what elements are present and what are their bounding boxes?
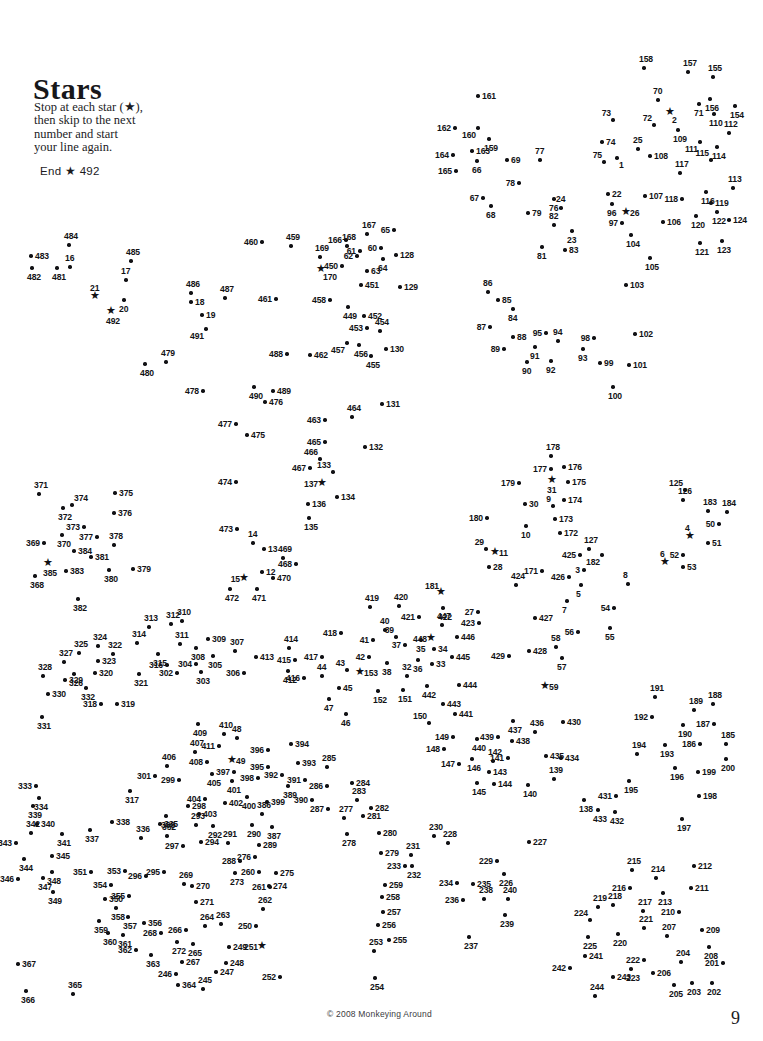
dot-icon (262, 547, 265, 550)
dot-icon (642, 958, 645, 961)
dot-icon (307, 516, 310, 519)
dot-icon (489, 204, 492, 207)
dot-number-label: 186 (682, 739, 696, 749)
dot-icon (224, 961, 227, 964)
dot-number-label: 89 (491, 344, 500, 354)
dot-number-label: 425 (562, 550, 576, 560)
dot-number-label: 75 (593, 150, 602, 160)
dot-number-label: 95 (533, 328, 542, 338)
dot-number-label: 3 (575, 565, 580, 575)
dot-number-label: 308 (191, 652, 205, 662)
dot-number-label: 42 (356, 652, 365, 662)
dot-icon (165, 834, 168, 837)
dot-icon (363, 445, 366, 448)
dot-number-label: 32 (402, 662, 411, 672)
dot-icon (565, 599, 568, 602)
dot-number-label: 53 (687, 562, 696, 572)
dot-number-label: 280 (383, 828, 397, 838)
dot-icon (50, 870, 53, 873)
dot-icon (112, 511, 115, 514)
dot-number-label: 128 (400, 250, 414, 260)
dot-number-label: 169 (315, 243, 329, 253)
dot-icon (131, 567, 134, 570)
dot-icon (234, 480, 237, 483)
dot-icon (82, 525, 85, 528)
dot-number-label: 324 (93, 632, 107, 642)
dot-icon (381, 257, 384, 260)
dot-icon (477, 621, 480, 624)
dot-number-label: 120 (691, 220, 705, 230)
dot-icon (128, 789, 131, 792)
star-icon: ★ (257, 940, 267, 951)
dot-icon (627, 779, 630, 782)
dot-number-label: 206 (657, 968, 671, 978)
dot-icon (385, 661, 388, 664)
dot-number-label: 174 (568, 495, 582, 505)
dot-icon (643, 194, 646, 197)
dot-number-label: 427 (539, 613, 553, 623)
dot-number-label: 261 (252, 882, 266, 892)
dot-number-label: 96 (607, 208, 616, 218)
dot-icon (201, 987, 204, 990)
dot-number-label: 368 (30, 580, 44, 590)
dot-icon (563, 248, 566, 251)
dot-icon (164, 814, 167, 817)
dot-icon (60, 533, 63, 536)
dot-number-label: 273 (230, 877, 244, 887)
dot-number-label: 109 (673, 134, 687, 144)
dot-icon (700, 928, 703, 931)
dot-icon (430, 662, 433, 665)
dot-icon (629, 233, 632, 236)
dot-icon (707, 945, 710, 948)
dot-number-label: 227 (533, 837, 547, 847)
dot-number-label: 46 (341, 718, 350, 728)
dot-icon (14, 841, 17, 844)
dot-icon (176, 983, 179, 986)
dot-icon (559, 206, 562, 209)
dot-icon (70, 503, 73, 506)
dot-icon (678, 171, 681, 174)
dot-number-label: 486 (186, 279, 200, 289)
dot-number-label: 115 (695, 148, 709, 158)
dot-icon (475, 159, 478, 162)
dot-icon (633, 332, 636, 335)
dot-number-label: 377 (79, 532, 93, 542)
dot-number-label: 133 (317, 460, 331, 470)
dot-icon (511, 335, 514, 338)
dot-icon (226, 841, 229, 844)
dot-number-label: 190 (678, 729, 692, 739)
dot-number-label: 416 (286, 673, 300, 683)
dot-number-label: 302 (159, 668, 173, 678)
dot-icon (362, 314, 365, 317)
dot-icon (355, 254, 358, 257)
dot-number-label: 413 (260, 652, 274, 662)
dot-icon (34, 784, 37, 787)
dot-icon (475, 737, 478, 740)
dot-number-label: 217 (638, 897, 652, 907)
dot-icon (204, 327, 207, 330)
dot-icon (274, 871, 277, 874)
dot-icon (60, 832, 63, 835)
dot-number-label: 101 (633, 360, 647, 370)
dot-icon (287, 646, 290, 649)
copyright-notice: © 2008 Monkeying Around (327, 1009, 432, 1019)
dot-icon (581, 347, 584, 350)
dot-number-label: 152 (373, 695, 387, 705)
dot-number-label: 401 (227, 785, 241, 795)
dot-icon (610, 202, 613, 205)
dot-number-label: 17 (121, 266, 130, 276)
dot-icon (696, 770, 699, 773)
dot-icon (180, 619, 183, 622)
dot-number-label: 473 (219, 524, 233, 534)
dot-number-label: 327 (59, 648, 73, 658)
dot-icon (540, 569, 543, 572)
dot-number-label: 457 (331, 345, 345, 355)
dot-number-label: 323 (102, 656, 116, 666)
dot-number-label: 263 (216, 910, 230, 920)
dot-icon (471, 882, 474, 885)
dot-icon (345, 668, 348, 671)
dot-icon (453, 126, 456, 129)
dot-icon (454, 169, 457, 172)
dot-icon (416, 658, 419, 661)
dot-number-label: 198 (703, 791, 717, 801)
